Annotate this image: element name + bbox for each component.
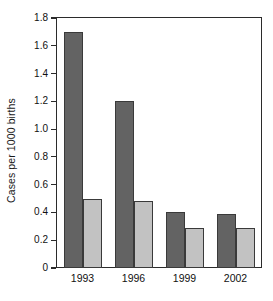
bar bbox=[185, 228, 204, 268]
plot-area bbox=[57, 18, 261, 268]
x-tick-label: 1996 bbox=[109, 272, 159, 284]
y-axis-ticks: 00.20.40.60.81.01.21.41.61.8 bbox=[0, 17, 56, 268]
y-tick-label: 1.0 bbox=[34, 122, 48, 136]
x-axis-ticks: 1993199619992002 bbox=[56, 272, 262, 292]
y-tick-label: 0.8 bbox=[34, 150, 48, 164]
x-tick-label: 1993 bbox=[58, 272, 108, 284]
bar bbox=[166, 212, 185, 268]
bar bbox=[217, 214, 236, 268]
y-tick-label: 0 bbox=[42, 261, 48, 275]
bar bbox=[83, 199, 102, 268]
bar bbox=[115, 101, 134, 268]
bar bbox=[134, 201, 153, 268]
y-tick-label: 0.4 bbox=[34, 205, 48, 219]
bar bbox=[64, 32, 83, 268]
y-tick-label: 1.2 bbox=[34, 94, 48, 108]
x-tick-label: 1999 bbox=[160, 272, 210, 284]
bar-chart-figure: Cases per 1000 births 00.20.40.60.81.01.… bbox=[0, 0, 273, 301]
x-tick-label: 2002 bbox=[211, 272, 261, 284]
y-tick-label: 1.8 bbox=[34, 11, 48, 25]
bar bbox=[236, 228, 255, 268]
y-tick-label: 1.4 bbox=[34, 67, 48, 81]
y-tick-label: 0.2 bbox=[34, 233, 48, 247]
y-tick-label: 1.6 bbox=[34, 39, 48, 53]
y-tick-label: 0.6 bbox=[34, 178, 48, 192]
